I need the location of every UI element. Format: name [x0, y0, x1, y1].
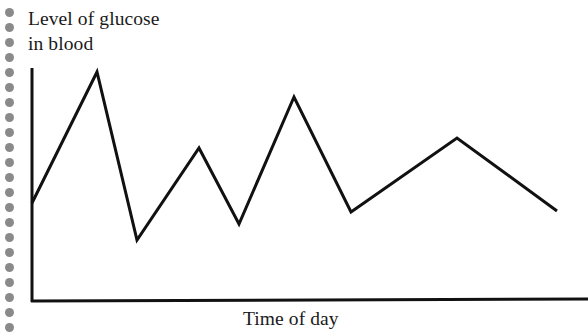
- x-axis-label: Time of day: [243, 306, 339, 331]
- glucose-data-line: [32, 72, 557, 240]
- x-axis: [31, 299, 588, 301]
- y-axis-label-line2: in blood: [28, 33, 93, 54]
- y-axis-label-line1: Level of glucose: [28, 8, 160, 29]
- chart-page: Level of glucosein blood Time of day: [0, 0, 588, 334]
- y-axis-label: Level of glucosein blood: [28, 6, 160, 56]
